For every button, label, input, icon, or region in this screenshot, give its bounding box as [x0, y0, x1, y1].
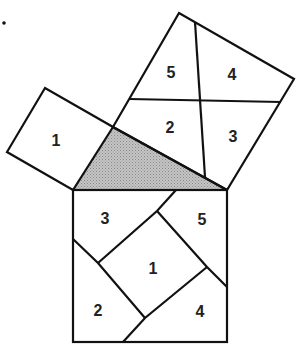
medium-square-divider-horizontal — [129, 99, 281, 102]
inner-line-bottom-left — [73, 239, 145, 318]
label-hyp-piece-5: 5 — [198, 211, 207, 228]
label-medium-piece-4: 4 — [228, 66, 237, 83]
label-medium-piece-2: 2 — [166, 119, 175, 136]
inner-line-top-right — [157, 211, 227, 287]
pythagoras-diagram: 1 5 4 2 3 3 5 1 2 4 — [0, 0, 301, 352]
inner-line-bottom-right — [123, 267, 207, 342]
bullet-marker — [2, 21, 6, 25]
inner-line-top-left — [98, 190, 176, 263]
label-medium-piece-3: 3 — [229, 128, 238, 145]
label-hyp-piece-3: 3 — [101, 210, 110, 227]
label-hyp-piece-1: 1 — [149, 260, 158, 277]
label-medium-piece-5: 5 — [167, 64, 176, 81]
label-small-square: 1 — [52, 132, 61, 149]
label-hyp-piece-2: 2 — [94, 302, 103, 319]
label-hyp-piece-4: 4 — [196, 303, 205, 320]
